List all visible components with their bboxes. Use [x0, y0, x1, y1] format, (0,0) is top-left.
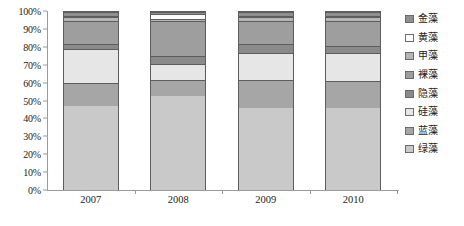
stacked-bar[interactable] [238, 11, 294, 190]
bar-segment[interactable] [239, 21, 293, 44]
legend-item[interactable]: 蓝藻 [405, 122, 463, 141]
legend-item-label: 隐藻 [418, 89, 438, 99]
legend-swatch-icon [405, 108, 414, 116]
bar-segment[interactable] [326, 81, 380, 108]
bar-segment[interactable] [151, 56, 205, 63]
legend-swatch-icon [405, 90, 414, 98]
x-axis-tick-mark [135, 190, 136, 194]
bar-segment[interactable] [239, 108, 293, 190]
legend-item[interactable]: 黄藻 [405, 29, 463, 48]
x-axis-line [47, 190, 399, 191]
chart-legend: 金藻黄藻甲藻裸藻隐藻硅藻蓝藻绿藻 [405, 10, 463, 159]
bar-segment[interactable] [326, 108, 380, 190]
x-axis-tick-mark [397, 190, 398, 194]
bar-segment[interactable] [326, 53, 380, 81]
legend-item-label: 蓝藻 [418, 126, 438, 136]
x-axis-tick-label: 2009 [238, 194, 294, 205]
bar-group[interactable] [325, 11, 381, 190]
legend-swatch-icon [405, 127, 414, 135]
legend-item[interactable]: 裸藻 [405, 66, 463, 85]
legend-item-label: 绿藻 [418, 144, 438, 154]
legend-item[interactable]: 甲藻 [405, 47, 463, 66]
bar-segment[interactable] [239, 53, 293, 80]
bar-series-container [47, 11, 397, 190]
stacked-bar-chart: 0%10%20%30%40%50%60%70%80%90%100% 200720… [0, 0, 464, 226]
legend-item[interactable]: 金藻 [405, 10, 463, 29]
legend-swatch-icon [405, 15, 414, 23]
bar-group[interactable] [238, 11, 294, 190]
stacked-bar[interactable] [63, 11, 119, 190]
bar-segment[interactable] [64, 21, 118, 44]
legend-swatch-icon [405, 145, 414, 153]
legend-item-label: 裸藻 [418, 70, 438, 80]
bar-group[interactable] [150, 11, 206, 190]
bar-segment[interactable] [326, 46, 380, 53]
legend-item-label: 甲藻 [418, 51, 438, 61]
bar-segment[interactable] [64, 49, 118, 83]
plot-area: 0%10%20%30%40%50%60%70%80%90%100% [47, 11, 397, 190]
x-axis-tick-label: 2008 [150, 194, 206, 205]
x-axis-tick-mark [310, 190, 311, 194]
legend-item[interactable]: 隐藻 [405, 84, 463, 103]
legend-item[interactable]: 硅藻 [405, 103, 463, 122]
x-axis-tick-label: 2010 [325, 194, 381, 205]
bar-segment[interactable] [326, 21, 380, 46]
legend-item[interactable]: 绿藻 [405, 140, 463, 159]
legend-swatch-icon [405, 52, 414, 60]
x-axis-tick-label: 2007 [63, 194, 119, 205]
legend-item-label: 金藻 [418, 14, 438, 24]
legend-swatch-icon [405, 71, 414, 79]
bar-segment[interactable] [151, 21, 205, 57]
legend-item-label: 黄藻 [418, 33, 438, 43]
bar-segment[interactable] [151, 96, 205, 190]
bar-segment[interactable] [64, 106, 118, 190]
stacked-bar[interactable] [325, 11, 381, 190]
stacked-bar[interactable] [150, 11, 206, 190]
legend-item-label: 硅藻 [418, 107, 438, 117]
bar-group[interactable] [63, 11, 119, 190]
bar-segment[interactable] [151, 80, 205, 96]
bar-segment[interactable] [151, 64, 205, 80]
bar-segment[interactable] [239, 80, 293, 108]
x-axis-tick-mark [222, 190, 223, 194]
bar-segment[interactable] [239, 44, 293, 53]
legend-swatch-icon [405, 34, 414, 42]
bar-segment[interactable] [64, 83, 118, 106]
